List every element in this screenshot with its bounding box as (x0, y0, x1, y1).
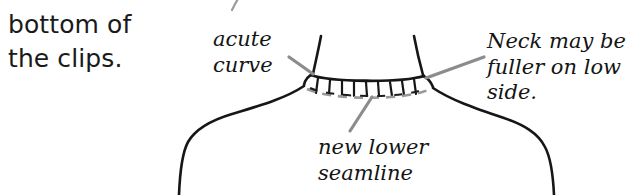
body-text-block: bottom of the clips. (8, 8, 188, 75)
callout-new-seamline-line-1: new lower (318, 135, 428, 161)
leader-acute-curve (289, 57, 313, 74)
left-shoulder-seam (179, 86, 304, 195)
callout-neck-fuller-line-3: side. (487, 80, 626, 106)
left-neckline-edge (313, 36, 321, 74)
callout-acute-curve-line-2: curve (213, 53, 273, 79)
body-text-line-2: the clips. (8, 42, 188, 76)
leader-neck-fuller (426, 57, 484, 78)
callout-acute-curve-line-1: acute (213, 27, 273, 53)
right-neckline-edge (414, 36, 423, 75)
body-text-line-1: bottom of (8, 8, 188, 42)
callout-new-lower-seamline: new lower seamline (318, 135, 428, 186)
illustration-page: bottom of the clips. acute curve Neck ma… (0, 0, 634, 195)
callout-acute-curve: acute curve (213, 27, 273, 78)
leader-new-seamline (350, 97, 372, 131)
top-stray-mark (232, 0, 238, 10)
callout-neck-fuller-line-1: Neck may be (487, 29, 626, 55)
callout-neck-fuller-line-2: fuller on low (487, 55, 626, 81)
neckline-curve (311, 75, 424, 81)
callout-neck-fuller: Neck may be fuller on low side. (487, 29, 626, 106)
callout-new-seamline-line-2: seamline (318, 161, 428, 187)
left-acute-corner (304, 74, 313, 85)
